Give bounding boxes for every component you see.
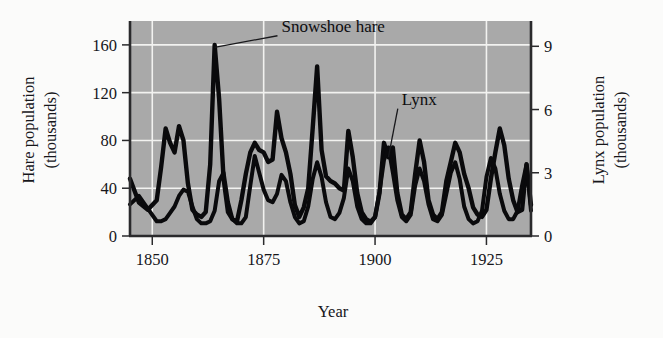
annotation-label: Lynx [402,90,437,109]
y-axis-title-hare-units: (thousands) [41,92,60,169]
y2-tick-label: 9 [544,37,552,56]
y-axis-title-hare: Hare population [19,77,38,184]
x-tick-label: 1850 [136,250,169,269]
y2-tick-label: 3 [544,164,552,183]
population-cycle-chart: 0408012016003691850187519001925 Snowshoe… [0,0,663,338]
y-tick-label: 0 [109,227,117,246]
x-axis-title: Year [318,302,349,321]
y-tick-label: 80 [101,131,118,150]
x-tick-label: 1900 [359,250,392,269]
y-tick-label: 160 [92,36,117,55]
figure-container: 0408012016003691850187519001925 Snowshoe… [0,0,663,338]
y2-axis-title-lynx: Lynx population [589,76,608,185]
y-tick-label: 40 [101,179,118,198]
y2-axis-title-lynx-units: (thousands) [611,92,630,169]
x-tick-label: 1925 [470,250,503,269]
annotation-label: Snowshoe hare [281,17,384,36]
y-tick-label: 120 [92,84,117,103]
y2-tick-label: 0 [544,227,552,246]
y2-tick-label: 6 [544,101,552,120]
x-tick-label: 1875 [247,250,280,269]
